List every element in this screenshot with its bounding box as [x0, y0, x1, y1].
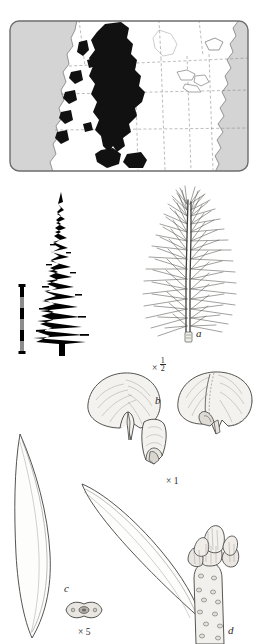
cone-scale-right: [178, 372, 252, 434]
figure-scale-c: × 5: [78, 628, 90, 638]
scale-bar: [19, 284, 26, 354]
shoot-tip-figure-d: [182, 520, 246, 644]
figure-label-d: d: [228, 625, 234, 636]
scale-prefix-c: ×: [78, 627, 83, 637]
cone-bract-centre: [142, 419, 166, 464]
figure-label-a: a: [196, 328, 202, 339]
needle-cross-section: [62, 598, 106, 622]
branchlet-figure-a: [132, 184, 244, 344]
figure-label-c: c: [64, 583, 69, 594]
conifer-habit: [33, 192, 89, 356]
tree-silhouette-panel: [6, 186, 126, 358]
cone-scales-figure-b: [82, 368, 258, 480]
figure-label-b: b: [155, 395, 161, 406]
scale-value-c: 5: [86, 627, 91, 637]
terminal-bud: [188, 526, 239, 567]
distribution-map: [9, 20, 249, 172]
